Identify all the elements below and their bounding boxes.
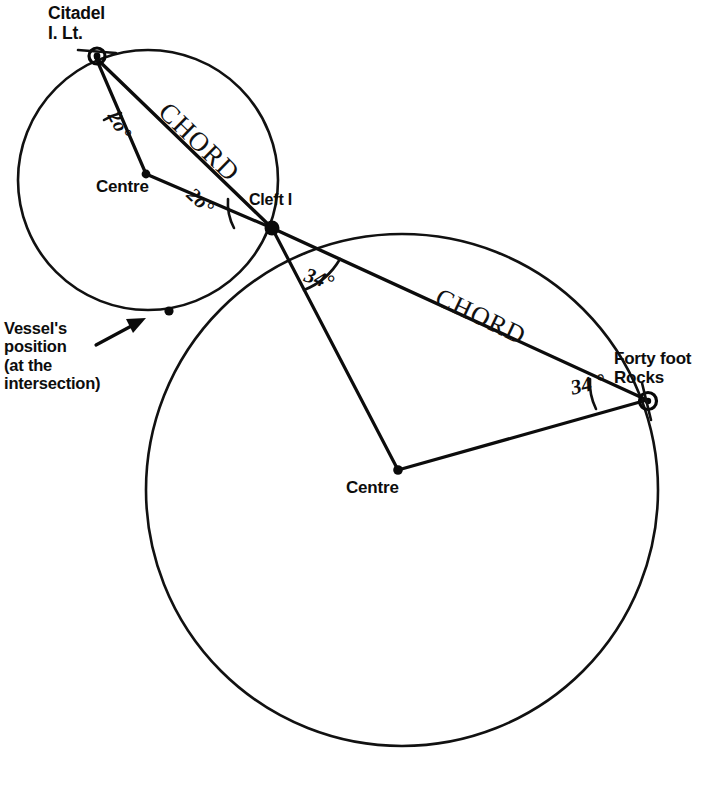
label-centre-upper-circle: Centre	[96, 177, 149, 196]
label-centre-lower-circle: Centre	[346, 478, 399, 497]
angle-arc-cleft-20	[228, 199, 234, 228]
cleft-island-vertex	[265, 221, 280, 236]
label-citadel-lighthouse: Citadel I. Lt.	[48, 4, 105, 43]
centre-dot-lower	[393, 465, 403, 475]
label-vessel-position: Vessel's position (at the intersection)	[4, 319, 100, 393]
radii-lower-circle	[272, 228, 647, 470]
navigation-diagram: Citadel I. Lt. Centre Cleft I Forty foot…	[0, 0, 714, 802]
lower-position-circle	[146, 234, 658, 746]
vessel-position-dot	[164, 306, 173, 315]
label-cleft-island: Cleft I	[249, 191, 292, 209]
figure-caption: Exercise 19 (alternative) (NSW TAFE Coas…	[160, 760, 551, 802]
label-forty-foot-rocks: Forty foot Rocks	[614, 349, 691, 387]
vessel-leader-arrow	[96, 318, 146, 345]
